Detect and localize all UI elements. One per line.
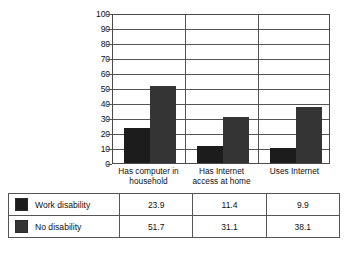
- y-axis-tickmark-0: [107, 164, 112, 165]
- value-work-disability-has-computer: 23.9: [120, 194, 193, 216]
- category-label-line-2: household: [112, 177, 185, 187]
- legend-label-work-disability: Work disability: [35, 200, 90, 210]
- bar-uses-internet-work-disability: [270, 148, 296, 163]
- category-label-has-computer: Has computer in household: [112, 167, 185, 186]
- table-row: Work disability 23.9 11.4 9.9: [9, 194, 340, 216]
- chart-plot-region: 100 90 80 70 60 50 40 30 20 10 0: [0, 0, 348, 185]
- category-label-line-1: Uses Internet: [258, 167, 331, 177]
- category-label-internet-access: Has Internet access at home: [185, 167, 258, 186]
- value-no-disability-has-computer: 51.7: [120, 216, 193, 238]
- y-axis-tick-70: 70: [80, 55, 110, 64]
- gridline-90: [113, 29, 329, 30]
- value-no-disability-uses-internet: 38.1: [266, 216, 339, 238]
- value-work-disability-internet-access: 11.4: [193, 194, 266, 216]
- y-axis-tick-90: 90: [80, 25, 110, 34]
- bar-has-computer-no-disability: [150, 86, 176, 163]
- gridline-70: [113, 59, 329, 60]
- value-work-disability-uses-internet: 9.9: [266, 194, 339, 216]
- group-separator-1: [185, 15, 186, 163]
- table-row: No disability 51.7 31.1 38.1: [9, 216, 340, 238]
- category-label-uses-internet: Uses Internet: [258, 167, 331, 177]
- legend-cell-no-disability: No disability: [9, 216, 120, 238]
- plot-frame: [112, 14, 330, 164]
- legend-swatch-icon: [15, 198, 28, 211]
- value-no-disability-internet-access: 31.1: [193, 216, 266, 238]
- y-axis-tick-20: 20: [80, 130, 110, 139]
- bar-chart-figure: 100 90 80 70 60 50 40 30 20 10 0: [0, 0, 348, 255]
- gridline-50: [113, 89, 329, 90]
- y-axis-tick-30: 30: [80, 115, 110, 124]
- category-label-line-2: access at home: [185, 177, 258, 187]
- bar-uses-internet-no-disability: [296, 107, 322, 163]
- bar-has-computer-work-disability: [124, 128, 150, 163]
- y-axis-tick-50: 50: [80, 85, 110, 94]
- gridline-60: [113, 74, 329, 75]
- y-axis-tick-80: 80: [80, 40, 110, 49]
- y-axis-tick-60: 60: [80, 70, 110, 79]
- legend-cell-work-disability: Work disability: [9, 194, 120, 216]
- y-axis-tick-40: 40: [80, 100, 110, 109]
- legend-label-no-disability: No disability: [35, 222, 81, 232]
- data-table: Work disability 23.9 11.4 9.9 No disabil…: [8, 193, 340, 238]
- bar-internet-access-no-disability: [223, 117, 249, 163]
- y-axis-tick-10: 10: [80, 145, 110, 154]
- bar-internet-access-work-disability: [197, 146, 223, 163]
- legend-swatch-icon: [15, 220, 28, 233]
- y-axis-tick-100: 100: [80, 10, 110, 19]
- gridline-40: [113, 104, 329, 105]
- gridline-80: [113, 44, 329, 45]
- group-separator-2: [258, 15, 259, 163]
- y-axis-tick-0: 0: [80, 160, 110, 169]
